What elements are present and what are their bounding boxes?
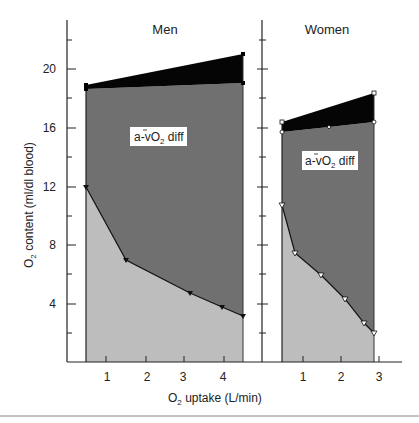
men-arterial-area <box>86 54 243 89</box>
y-axis-title: O2 content (ml/dl blood) <box>22 142 38 268</box>
women-x-tick-2: 2 <box>338 370 345 384</box>
men-diff-label: a-vO2 diff <box>130 127 187 146</box>
women-panel-title: Women <box>305 22 350 37</box>
women-panel: 1 2 3 Women a-vO2 diff <box>252 20 402 384</box>
women-x-tick-labels: 1 2 3 <box>300 370 383 384</box>
svg-text:a-vO2 diff: a-vO2 diff <box>134 130 184 146</box>
x-axis-title: O2 uptake (L/min) <box>168 391 262 407</box>
y-tick-12: 12 <box>43 180 57 194</box>
women-x-tick-1: 1 <box>300 370 307 384</box>
y-tick-20: 20 <box>43 62 57 76</box>
y-tick-16: 16 <box>43 121 57 135</box>
men-panel: 20 16 12 8 4 1 2 3 4 Men a-vO2 diff <box>43 20 252 384</box>
men-x-tick-1: 1 <box>104 370 111 384</box>
men-y-ticks <box>67 40 76 333</box>
svg-text:a-vO2 diff: a-vO2 diff <box>305 154 355 170</box>
y-tick-labels: 20 16 12 8 4 <box>43 62 57 311</box>
men-x-tick-2: 2 <box>144 370 151 384</box>
chart-canvas: 20 16 12 8 4 1 2 3 4 Men a-vO2 diff <box>0 0 419 423</box>
women-x-tick-3: 3 <box>376 370 383 384</box>
men-panel-title: Men <box>152 22 177 37</box>
y-tick-8: 8 <box>49 238 56 252</box>
men-x-tick-3: 3 <box>180 370 187 384</box>
women-diff-label: a-vO2 diff <box>302 151 358 170</box>
men-x-tick-4: 4 <box>220 370 227 384</box>
y-tick-4: 4 <box>49 297 56 311</box>
men-x-tick-labels: 1 2 3 4 <box>104 370 227 384</box>
